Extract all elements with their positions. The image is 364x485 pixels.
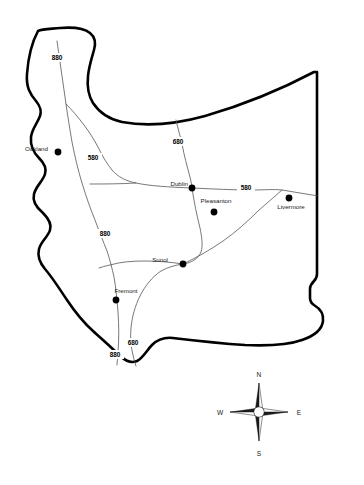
highway-label-text: 680 xyxy=(128,339,139,346)
city-dot-livermore[interactable] xyxy=(286,195,293,202)
highway-label-text: 880 xyxy=(100,230,111,237)
highway-label-text: 880 xyxy=(110,351,121,358)
compass-label-west: W xyxy=(217,409,224,416)
compass-east-arm-light xyxy=(263,409,288,413)
city-dot-pleasanton[interactable] xyxy=(211,209,218,216)
highway-label-text: 580 xyxy=(241,184,252,191)
compass-label-south: S xyxy=(257,450,262,457)
compass-south-arm-light xyxy=(259,416,263,441)
city-label-fremont: Fremont xyxy=(114,287,137,294)
compass-east-arm-dark xyxy=(263,412,288,416)
compass-label-north: N xyxy=(257,371,262,378)
highway-label: 880 xyxy=(48,53,66,62)
city-label-sunol: Sunol xyxy=(152,256,168,263)
city-dot-sunol[interactable] xyxy=(180,261,187,268)
highway-label-text: 680 xyxy=(173,138,184,145)
city-dot-oakland[interactable] xyxy=(55,149,62,156)
city-label-oakland: Oakland xyxy=(25,145,49,152)
compass-hub-circle xyxy=(254,407,264,417)
compass-rose: N S E W xyxy=(217,371,302,457)
highway-label-text: 580 xyxy=(88,154,99,161)
city-dot-fremont[interactable] xyxy=(113,297,120,304)
city-label-pleasanton: Pleasanton xyxy=(201,197,233,204)
compass-north-arm-light xyxy=(259,383,263,408)
highway-label: 680 xyxy=(124,338,142,347)
map-canvas: 880 580 680 580 880 680 xyxy=(0,0,364,485)
city-label-livermore: Livermore xyxy=(277,203,305,210)
highway-label: 880 xyxy=(96,229,114,238)
compass-north-arm-dark xyxy=(256,383,260,408)
compass-label-east: E xyxy=(297,409,302,416)
highway-label: 880 xyxy=(106,350,124,359)
highway-label: 580 xyxy=(84,153,102,162)
highway-label-text: 880 xyxy=(52,54,63,61)
city-dot-dublin[interactable] xyxy=(189,185,196,192)
compass-west-arm-dark xyxy=(230,409,255,413)
compass-south-arm-dark xyxy=(256,416,260,441)
compass-west-arm-light xyxy=(230,412,255,416)
city-label-dublin: Dublin xyxy=(170,180,188,187)
county-boundary-outline xyxy=(27,28,323,362)
highway-label: 680 xyxy=(169,137,187,146)
county-highway-map: 880 580 680 580 880 680 xyxy=(0,0,364,485)
highway-label: 580 xyxy=(237,183,255,192)
